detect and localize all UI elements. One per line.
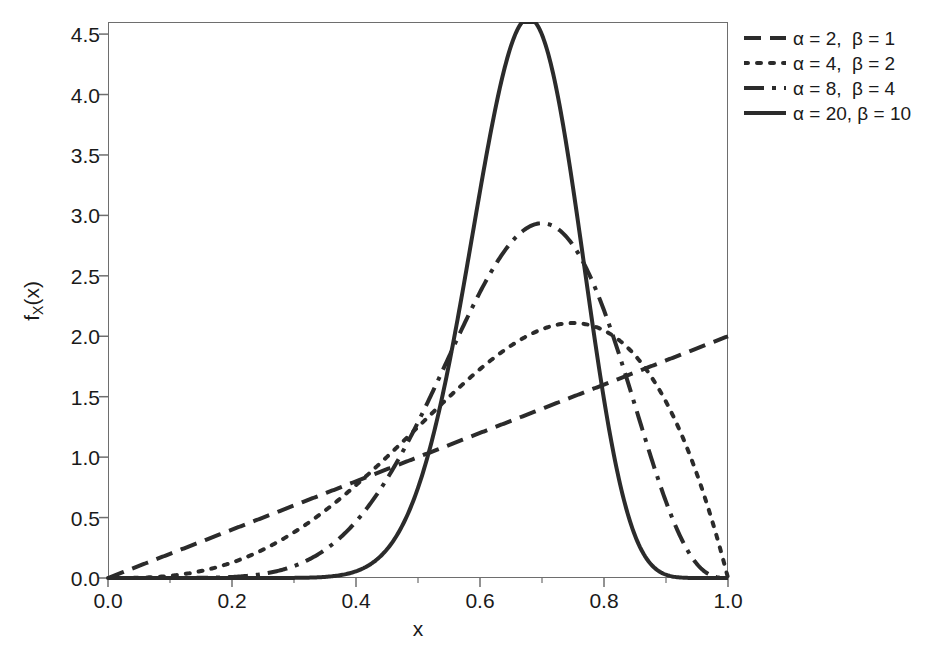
y-axis-tick-label: 3.0 xyxy=(38,205,100,226)
y-axis-tick-label: 2.5 xyxy=(38,266,100,287)
legend-item: α = 2, β = 1 xyxy=(744,26,934,50)
legend-item-label: α = 20, β = 10 xyxy=(793,104,911,123)
legend-item: α = 4, β = 2 xyxy=(744,51,934,75)
figure-canvas: 0.00.51.01.52.02.53.03.54.04.5 0.00.20.4… xyxy=(0,0,937,648)
legend-line-swatch xyxy=(744,106,786,120)
legend-line-swatch xyxy=(744,56,786,70)
legend-item: α = 20, β = 10 xyxy=(744,101,934,125)
y-axis-tick-label: 1.0 xyxy=(38,447,100,468)
y-axis-title-subscript: X xyxy=(30,306,46,315)
legend-item-label: α = 4, β = 2 xyxy=(793,54,895,73)
legend-line-sample xyxy=(744,106,786,120)
legend-item: α = 8, β = 4 xyxy=(744,76,934,100)
legend-line-sample xyxy=(744,31,786,45)
series-line-1 xyxy=(108,336,728,578)
x-axis-tick-label: 0.2 xyxy=(197,590,267,611)
y-axis-tick-label: 4.5 xyxy=(38,24,100,45)
x-axis-tick-label: 0.6 xyxy=(445,590,515,611)
plot-area xyxy=(96,22,740,594)
legend-item-label: α = 8, β = 4 xyxy=(793,79,895,98)
x-axis-title-text: x xyxy=(413,617,424,640)
x-axis-tick-label: 0.0 xyxy=(73,590,143,611)
y-axis-tick-label: 4.0 xyxy=(38,85,100,106)
y-axis-tick-label: 0.5 xyxy=(38,508,100,529)
x-axis-title: x xyxy=(108,617,728,641)
legend-item-label: α = 2, β = 1 xyxy=(793,29,895,48)
y-axis-title-tail: (x) xyxy=(20,281,43,306)
x-axis-tick-labels: 0.00.20.40.60.81.0 xyxy=(0,590,937,620)
y-axis-title: fX(x) xyxy=(20,241,46,361)
y-axis-tick-label: 1.5 xyxy=(38,387,100,408)
series-line-3 xyxy=(108,223,728,578)
x-axis-tick-label: 1.0 xyxy=(693,590,763,611)
y-axis-tick-label: 2.0 xyxy=(38,326,100,347)
legend-line-swatch xyxy=(744,81,786,95)
legend-line-sample xyxy=(744,56,786,70)
series-line-4 xyxy=(108,22,728,578)
x-axis-tick-label: 0.8 xyxy=(569,590,639,611)
legend: α = 2, β = 1α = 4, β = 2α = 8, β = 4α = … xyxy=(744,26,934,126)
x-axis-tick-label: 0.4 xyxy=(321,590,391,611)
legend-line-sample xyxy=(744,81,786,95)
y-axis-tick-label: 0.0 xyxy=(38,568,100,589)
legend-line-swatch xyxy=(744,31,786,45)
y-axis-tick-label: 3.5 xyxy=(38,145,100,166)
y-axis-title-main: f xyxy=(20,315,43,321)
